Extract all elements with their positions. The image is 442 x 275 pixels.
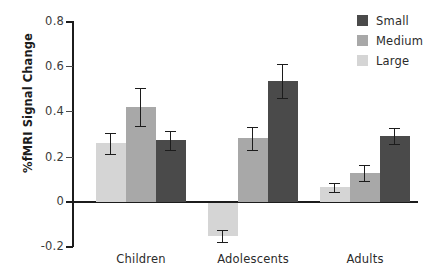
errorbar-cap-children-medium-bottom [135, 126, 146, 127]
errorbar-cap-adolescents-medium-bottom [247, 150, 258, 151]
y-tick--0.2 [66, 246, 73, 248]
errorbar-cap-children-small-bottom [165, 150, 176, 151]
x-axis-label-children: Children [96, 252, 186, 266]
errorbar-adolescents-medium [252, 127, 253, 150]
y-tick-0.6 [66, 66, 73, 67]
errorbar-cap-adults-medium-top [359, 165, 370, 166]
errorbar-children-medium [140, 88, 141, 126]
errorbar-adolescents-small [282, 64, 283, 98]
y-tick-label-0: 0 [16, 194, 64, 208]
errorbar-adolescents-large [222, 230, 223, 242]
errorbar-adults-medium [364, 165, 365, 181]
bar-adults-medium [350, 173, 380, 202]
legend-item-large: Large [357, 52, 423, 69]
errorbar-cap-children-large-top [105, 133, 116, 134]
x-axis-label-adolescents: Adolescents [198, 252, 308, 266]
y-tick-0.4 [66, 111, 73, 112]
errorbar-cap-adults-large-top [329, 183, 340, 184]
errorbar-cap-adolescents-large-top [217, 230, 228, 231]
legend-swatch-medium-icon [357, 35, 368, 46]
bar-adolescents-small [268, 81, 298, 202]
errorbar-cap-adolescents-small-bottom [277, 98, 288, 99]
legend-item-small: Small [357, 12, 423, 29]
y-tick-0.8 [66, 21, 73, 23]
legend-label-small: Small [376, 14, 409, 28]
errorbar-adults-small [394, 128, 395, 144]
y-tick-label--0.2: -0.2 [16, 239, 64, 253]
legend: Small Medium Large [357, 12, 423, 72]
errorbar-cap-adolescents-medium-top [247, 127, 258, 128]
bar-adolescents-medium [238, 138, 268, 202]
bar-adults-large [320, 187, 350, 202]
legend-swatch-small-icon [357, 15, 368, 26]
y-axis-title: %fMRI Signal Change [21, 23, 35, 183]
bar-adolescents-large [208, 203, 238, 236]
y-tick-0 [66, 201, 73, 203]
errorbar-cap-adults-medium-bottom [359, 181, 370, 182]
errorbar-cap-adults-small-top [389, 128, 400, 129]
errorbar-children-large [110, 133, 111, 154]
errorbar-cap-adolescents-small-top [277, 64, 288, 65]
bar-children-large [96, 143, 126, 202]
errorbar-cap-children-medium-top [135, 88, 146, 89]
errorbar-adults-large [334, 183, 335, 192]
errorbar-cap-adults-large-bottom [329, 192, 340, 193]
legend-label-medium: Medium [376, 34, 423, 48]
errorbar-cap-children-large-bottom [105, 154, 116, 155]
errorbar-cap-adolescents-large-bottom [217, 242, 228, 243]
legend-swatch-large-icon [357, 55, 368, 66]
bar-children-medium [126, 107, 156, 202]
y-tick-0.2 [66, 157, 73, 158]
errorbar-cap-adults-small-bottom [389, 144, 400, 145]
y-axis-line [72, 21, 74, 247]
bar-adults-small [380, 136, 410, 202]
legend-item-medium: Medium [357, 32, 423, 49]
errorbar-children-small [170, 131, 171, 150]
legend-label-large: Large [376, 54, 409, 68]
x-axis-label-adults: Adults [319, 252, 411, 266]
errorbar-cap-children-small-top [165, 131, 176, 132]
chart-figure: 0.8 0.6 0.4 0.2 0 -0.2 %fMRI Signal Chan… [0, 0, 442, 275]
